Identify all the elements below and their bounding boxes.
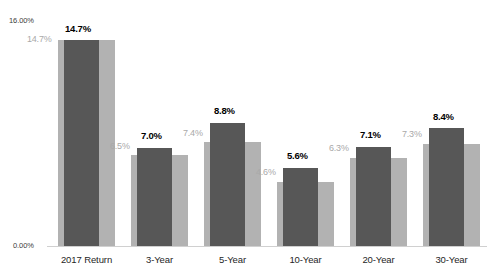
- front-bar-30-year: [429, 128, 464, 246]
- value-label-back-3-year: 6.5%: [110, 141, 130, 151]
- bar-chart: 16.00% 0.00%: [0, 0, 491, 279]
- value-label-front-20-year: 7.1%: [360, 129, 381, 140]
- front-bar-5-year: [210, 123, 245, 246]
- x-axis-label-30-year: 30-Year: [423, 254, 480, 265]
- value-label-back-2017-return: 14.7%: [27, 34, 52, 44]
- value-label-back-30-year: 7.3%: [402, 129, 422, 139]
- value-label-front-2017-return: 14.7%: [65, 23, 91, 34]
- front-bar-20-year: [356, 147, 391, 246]
- bar-group-10-year: [277, 22, 334, 246]
- value-label-back-5-year: 7.4%: [183, 128, 203, 138]
- y-axis-tick-bottom: 0.00%: [13, 241, 34, 250]
- front-bar-3-year: [137, 148, 172, 246]
- value-label-front-30-year: 8.4%: [433, 111, 454, 122]
- x-axis-label-5-year: 5-Year: [204, 254, 261, 265]
- x-axis-label-20-year: 20-Year: [350, 254, 407, 265]
- bar-group-30-year: [423, 22, 480, 246]
- x-axis-label-10-year: 10-Year: [277, 254, 334, 265]
- x-axis-label-2017-return: 2017 Return: [58, 254, 115, 265]
- value-label-front-3-year: 7.0%: [141, 130, 162, 141]
- front-bar-2017-return: [64, 40, 99, 246]
- y-axis-tick-top: 16.00%: [9, 16, 34, 25]
- bar-group-5-year: [204, 22, 261, 246]
- bar-group-2017-return: [58, 22, 115, 246]
- value-label-front-10-year: 5.6%: [287, 150, 308, 161]
- x-axis-label-3-year: 3-Year: [131, 254, 188, 265]
- value-label-front-5-year: 8.8%: [214, 105, 235, 116]
- value-label-back-10-year: 4.6%: [256, 167, 276, 177]
- x-axis-baseline: [47, 246, 487, 247]
- value-label-back-20-year: 6.3%: [329, 143, 349, 153]
- front-bar-10-year: [283, 168, 318, 246]
